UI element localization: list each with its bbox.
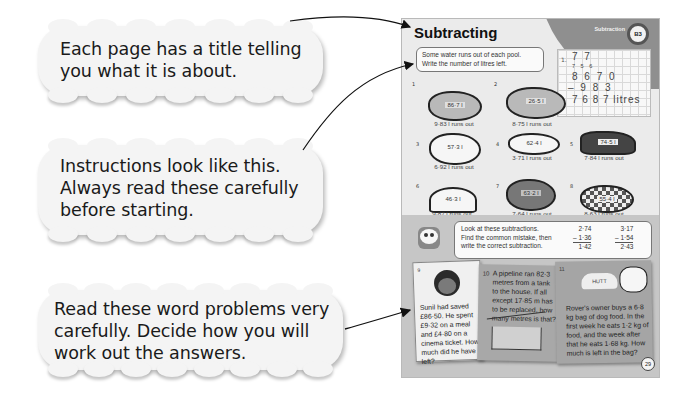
worked-example: 1. 7 7 7 5 6 8 6 7 0 – 9 8 3 7 6 8 7 lit…	[557, 49, 651, 117]
unit-badge: B3	[627, 23, 649, 45]
instruction-box: Some water runs out of each pool. Write …	[416, 47, 544, 72]
pool-7: 63·2 l	[506, 179, 556, 211]
callout-text: Instructions look like this. Always read…	[38, 145, 323, 221]
pool-8: 55·4 l	[580, 185, 634, 213]
instructions-callout: Instructions look like this. Always read…	[38, 145, 323, 235]
mistake-sum-1: 2·74 – 1·36 1·42	[573, 225, 591, 252]
callout-text: Each page has a title telling you what i…	[38, 26, 323, 82]
callout-text: Read these word problems very carefully.…	[38, 290, 343, 364]
word-problem-9: 9 Sunil had saved £86·50. He spent £9·32…	[412, 260, 483, 362]
textbook-page: Subtracting Subtraction B3 Some water ru…	[401, 18, 660, 378]
mistake-sum-2: 3·17 – 1·54 2·43	[615, 225, 633, 252]
word-problem-11: 11 HUTT Rover's owner buys a 6·8 kg bag …	[555, 260, 653, 364]
owl-icon	[418, 227, 440, 249]
pool-2: 26·5 l	[506, 87, 566, 119]
house-illustration-icon	[491, 327, 541, 351]
pool-3: 57·3 l	[429, 133, 481, 165]
pool-4: 62·4 l	[508, 133, 560, 155]
dog-illustration-icon	[619, 266, 647, 292]
page-title: Subtracting	[414, 24, 497, 41]
boy-illustration-icon	[434, 270, 461, 297]
word-problems-callout: Read these word problems very carefully.…	[38, 290, 343, 370]
dog-hut-icon: HUTT	[581, 273, 617, 290]
word-problem-10: 10 A pipeline ran 82·3 metres from a tan…	[477, 264, 559, 361]
pool-1: 86·7 l	[428, 91, 482, 121]
lower-section: Look at these subtractions. Find the com…	[402, 215, 659, 377]
mistake-instruction-box: Look at these subtractions. Find the com…	[454, 221, 652, 259]
section-label: Subtraction	[594, 26, 625, 32]
page-number: 29	[641, 357, 655, 371]
title-callout: Each page has a title telling you what i…	[38, 26, 323, 96]
pool-5: 74·5 l	[580, 131, 636, 155]
